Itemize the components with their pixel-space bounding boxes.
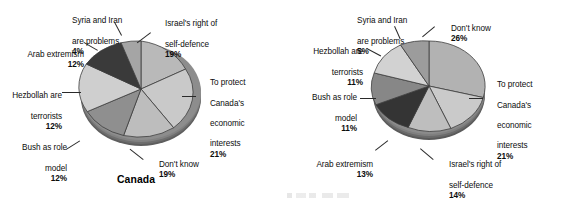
- callout-line-1: Hezbollah are: [12, 91, 62, 100]
- leader-line-quebec-economic: [469, 98, 483, 99]
- callout-percent: 13%: [285, 170, 373, 180]
- callout-percent: 12%: [0, 122, 62, 132]
- callout-line-4: interests: [210, 139, 241, 148]
- callout-line-2: terrorists: [31, 112, 62, 121]
- callout-percent: 11%: [285, 124, 357, 134]
- two-pie-chart-figure: Syria and Iran are problems 4% Israel's …: [0, 0, 570, 203]
- callout-line-1: To protect: [497, 80, 532, 89]
- callout-line-1: Hezbollah are: [313, 47, 363, 56]
- callout-line-1: To protect: [210, 78, 245, 87]
- chart-title-canada: Canada: [117, 174, 155, 185]
- callout-canada-economic: To protect Canada's economic interests 2…: [210, 68, 245, 170]
- callout-line-2: terrorists: [332, 68, 363, 77]
- callout-line-1: Don't know: [451, 24, 491, 33]
- callout-percent: 21%: [497, 152, 532, 162]
- callout-line-2: self-defence: [165, 40, 209, 49]
- callout-line-4: interests: [497, 141, 528, 150]
- callout-canada-israel: Israel's right of self-defence 19%: [165, 9, 217, 70]
- callout-quebec-economic: To protect Canada's economic interests 2…: [497, 70, 532, 172]
- leader-line-canada-economic: [182, 96, 196, 97]
- leader-line-canada-hezbollah: [62, 92, 81, 93]
- callout-canada-bush: Bush as role model 12%: [0, 133, 67, 194]
- callout-quebec-bush: Bush as role model 11%: [285, 83, 357, 144]
- callout-canada-dontknow: Don't know 19%: [159, 150, 199, 191]
- callout-percent: 14%: [449, 191, 501, 201]
- callout-line-2: self-defence: [449, 181, 493, 190]
- callout-line-1: Israel's right of: [449, 160, 501, 169]
- leader-line-quebec-israel: [420, 148, 434, 160]
- callout-quebec-dontknow: Don't know 26%: [451, 14, 491, 55]
- callout-line-1: Syria and Iran: [357, 16, 407, 25]
- chart-panel-quebec: Syria and Iran are problems 5% Don't kno…: [285, 0, 570, 203]
- callout-line-2: Canada's: [210, 99, 244, 108]
- callout-percent: 26%: [451, 34, 491, 44]
- callout-line-2: Canada's: [497, 101, 531, 110]
- callout-line-1: Arab extremism: [316, 160, 373, 169]
- callout-line-1: Bush as role: [312, 93, 357, 102]
- callout-quebec-israel: Israel's right of self-defence 14%: [449, 150, 501, 203]
- callout-line-3: economic: [497, 121, 532, 130]
- callout-line-3: economic: [210, 119, 245, 128]
- callout-percent: 5%: [357, 47, 407, 57]
- callout-percent: 12%: [0, 60, 84, 70]
- callout-quebec-syria: Syria and Iran are problems 5%: [357, 6, 407, 67]
- callout-percent: 12%: [0, 174, 67, 184]
- chart-panel-canada: Syria and Iran are problems 4% Israel's …: [0, 0, 285, 203]
- callout-line-1: Don't know: [159, 160, 199, 169]
- callout-line-2: model: [335, 114, 357, 123]
- callout-percent: 19%: [159, 170, 199, 180]
- callout-line-2: model: [45, 164, 67, 173]
- callout-line-1: Israel's right of: [165, 19, 217, 28]
- callout-canada-arab: Arab extremism 12%: [0, 40, 84, 81]
- callout-percent: 21%: [210, 150, 245, 160]
- callout-line-1: Arab extremism: [27, 50, 84, 59]
- callout-line-1: Bush as role: [22, 143, 67, 152]
- callout-percent: 19%: [165, 50, 217, 60]
- callout-line-1: Syria and Iran: [72, 16, 122, 25]
- callout-line-2: are problems: [357, 37, 404, 46]
- scan-edge-artifact: [287, 193, 349, 198]
- callout-quebec-arab: Arab extremism 13%: [285, 150, 373, 191]
